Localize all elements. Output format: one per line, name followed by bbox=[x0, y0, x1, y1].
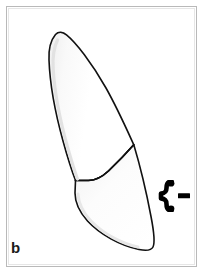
panel-label: b bbox=[11, 240, 20, 255]
figure-panel: b bbox=[0, 0, 203, 273]
brace-bottom-terminal bbox=[168, 205, 175, 212]
brace-top-terminal bbox=[168, 180, 175, 187]
tooth-line-drawing bbox=[0, 0, 203, 273]
dash-icon bbox=[178, 193, 190, 198]
brace-dash-marker bbox=[158, 180, 192, 212]
